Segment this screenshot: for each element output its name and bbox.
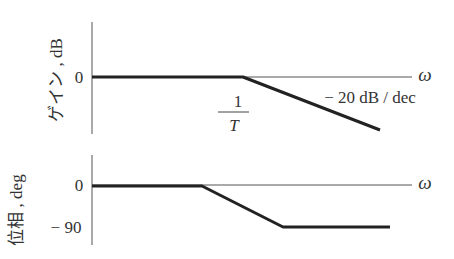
phase-curve bbox=[92, 186, 390, 227]
gain-omega-label: ω bbox=[418, 64, 431, 85]
corner-frequency-numerator: 1 bbox=[234, 92, 243, 111]
phase-minus90-tick: − 90 bbox=[51, 218, 82, 237]
corner-frequency-denominator: T bbox=[229, 116, 240, 135]
phase-plot: 位相 , deg 0 − 90 ω bbox=[7, 155, 432, 246]
gain-y-label: ゲイン , dB bbox=[47, 38, 66, 122]
phase-zero-tick: 0 bbox=[75, 176, 84, 195]
slope-label: − 20 dB / dec bbox=[324, 88, 416, 107]
gain-plot: ゲイン , dB 0 ω 1 T − 20 dB / dec bbox=[47, 22, 432, 135]
bode-diagram: ゲイン , dB 0 ω 1 T − 20 dB / dec 位相 , deg … bbox=[0, 0, 454, 259]
phase-omega-label: ω bbox=[418, 172, 431, 193]
phase-y-label: 位相 , deg bbox=[7, 174, 26, 246]
gain-zero-tick: 0 bbox=[75, 68, 84, 87]
